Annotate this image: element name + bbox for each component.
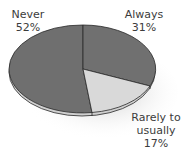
label-never: Never 52% bbox=[8, 8, 48, 34]
label-never-value: 52% bbox=[8, 21, 48, 34]
label-rarely-name-line1: Rarely to bbox=[130, 111, 182, 124]
label-never-name: Never bbox=[8, 8, 48, 21]
label-always-name: Always bbox=[124, 8, 164, 21]
pie-chart: Never 52% Always 31% Rarely to usually 1… bbox=[0, 0, 182, 153]
label-always: Always 31% bbox=[124, 8, 164, 34]
label-rarely-to-usually: Rarely to usually 17% bbox=[130, 111, 182, 150]
label-rarely-value: 17% bbox=[130, 137, 182, 150]
label-always-value: 31% bbox=[124, 21, 164, 34]
label-rarely-name-line2: usually bbox=[130, 124, 182, 137]
